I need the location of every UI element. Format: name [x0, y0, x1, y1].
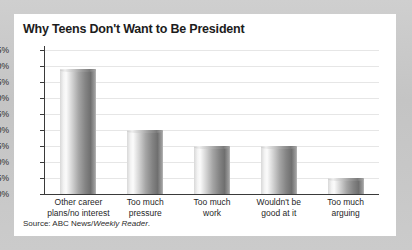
y-axis-tick [40, 66, 45, 67]
y-axis-tick-label: 45% [0, 46, 9, 55]
y-axis-tick-label: 30% [0, 94, 9, 103]
bar-cap [127, 130, 163, 133]
x-axis-label-line: Other career [45, 197, 112, 208]
x-axis-tick-label: Wouldn't begood at it [245, 197, 312, 218]
y-axis-tick [40, 146, 45, 147]
source-publication: Weekly Reader [93, 219, 148, 228]
y-axis-tick [40, 98, 45, 99]
bar [60, 69, 96, 194]
y-axis-tick [40, 50, 45, 51]
x-axis-tick-label: Too mucharguing [312, 197, 379, 218]
y-axis-tick-label: 0% [0, 190, 9, 199]
y-axis-tick [40, 82, 45, 83]
y-axis-tick [40, 130, 45, 131]
x-axis-label-line: arguing [312, 208, 379, 219]
x-axis-label-line: Too much [312, 197, 379, 208]
x-axis-label-line: Too much [179, 197, 246, 208]
x-axis-label-line: plans/no interest [45, 208, 112, 219]
x-axis-tick-label: Too muchwork [179, 197, 246, 218]
bar-cap [194, 146, 230, 149]
y-axis-tick-label: 5% [0, 174, 9, 183]
y-axis-tick-label: 35% [0, 78, 9, 87]
x-axis-tick-label: Too muchpressure [112, 197, 179, 218]
chart-panel: Why Teens Don't Want to Be President 45%… [14, 14, 396, 236]
plot-area [45, 50, 379, 194]
source-note: Source: ABC News/Weekly Reader. [23, 219, 150, 228]
x-axis-tick-label: Other careerplans/no interest [45, 197, 112, 218]
y-axis-tick-label: 10% [0, 158, 9, 167]
y-axis-tick [40, 162, 45, 163]
x-axis-line [45, 194, 379, 195]
gridline [45, 50, 379, 51]
bar-cap [328, 178, 364, 181]
y-axis-tick [40, 178, 45, 179]
chart-title: Why Teens Don't Want to Be President [23, 22, 244, 36]
y-axis-tick [40, 194, 45, 195]
y-axis-labels: 45%40%35%30%25%20%15%10%5%0% [0, 50, 9, 194]
y-axis-tick [40, 114, 45, 115]
bar-cap [261, 146, 297, 149]
x-axis-label-line: pressure [112, 208, 179, 219]
bar [261, 146, 297, 194]
y-axis-tick-label: 25% [0, 110, 9, 119]
gridline [45, 66, 379, 67]
bar-cap [60, 69, 96, 72]
source-prefix: Source: ABC News/ [23, 219, 93, 228]
bar [127, 130, 163, 194]
y-axis-line [44, 46, 45, 195]
bar [194, 146, 230, 194]
x-axis-label-line: Too much [112, 197, 179, 208]
y-axis-tick-label: 40% [0, 62, 9, 71]
y-axis-tick-label: 20% [0, 126, 9, 135]
y-axis-tick-label: 15% [0, 142, 9, 151]
x-axis-label-line: good at it [245, 208, 312, 219]
x-axis-label-line: Wouldn't be [245, 197, 312, 208]
x-axis-label-line: work [179, 208, 246, 219]
bar [328, 178, 364, 194]
source-suffix: . [148, 219, 150, 228]
